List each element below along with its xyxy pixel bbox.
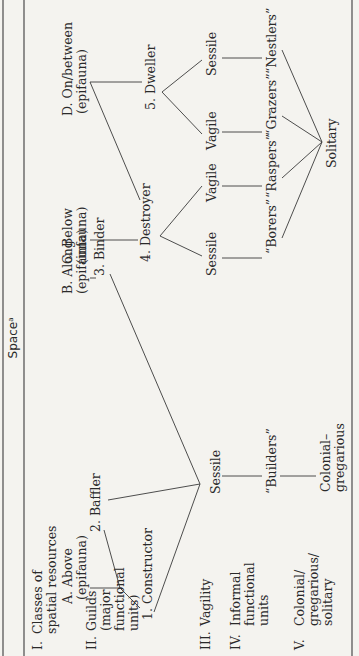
svg-text:A. Above: A. Above (60, 548, 75, 605)
svg-text:gregarious: gregarious (332, 423, 347, 492)
svg-text:(major: (major (98, 589, 113, 631)
guild-dweller: 5. Dweller (143, 45, 158, 110)
row-label-colonial: V. Colonial/ gregarious/ solitary (292, 552, 335, 651)
row-label-guilds: II. Guilds (major functional units) (84, 567, 141, 650)
rotated-diagram-page: Spacea I. Classes of spatial resources I… (0, 0, 359, 656)
svg-text:I.: I. (30, 641, 45, 650)
guild-binder: 3. Binder (92, 217, 107, 276)
svg-text:(epifauna): (epifauna) (74, 535, 89, 600)
row-label-informal-units: IV. Informal functional units (228, 562, 271, 650)
informal-borers: “Borers” (264, 199, 279, 254)
guild-constructor: 1. Constructor (140, 528, 155, 620)
guild-hierarchy-diagram: Spacea I. Classes of spatial resources I… (0, 0, 359, 656)
svg-text:Colonial/: Colonial/ (292, 569, 307, 626)
vagility-vagile-destroyer: Vagile (204, 163, 219, 203)
svg-text:Classes of: Classes of (30, 569, 45, 634)
svg-text:(epifauna): (epifauna) (74, 49, 89, 114)
svg-text:units: units (256, 594, 271, 626)
spatial-class-below: C. Below (infauna) (60, 207, 89, 264)
svg-text:spatial resources: spatial resources (44, 526, 59, 634)
svg-text:units): units) (126, 595, 141, 631)
vagility-sessile-destroyer: Sessile (204, 232, 219, 276)
svg-text:Colonial–: Colonial– (318, 434, 333, 492)
svg-text:C. Below: C. Below (60, 208, 75, 264)
svg-text:IV.: IV. (228, 634, 243, 650)
svg-text:gregarious/: gregarious/ (306, 552, 321, 626)
solitary-label: Solitary (324, 117, 339, 168)
guild-destroyer: 4. Destroyer (138, 183, 153, 262)
svg-text:III.: III. (198, 631, 213, 650)
informal-raspers: “Raspers” (264, 134, 279, 198)
colonial-gregarious: Colonial– gregarious (318, 423, 347, 492)
svg-text:Informal: Informal (228, 572, 243, 626)
svg-text:functional: functional (112, 567, 127, 631)
spatial-class-above: A. Above (epifauna) (60, 535, 89, 605)
svg-text:(infauna): (infauna) (74, 207, 89, 264)
svg-text:functional: functional (242, 562, 257, 626)
svg-text:V.: V. (292, 639, 307, 651)
guild-baffler: 2. Baffler (88, 473, 103, 532)
header-title: Spacea (6, 318, 20, 359)
svg-text:D. On/between: D. On/between (60, 22, 75, 116)
svg-text:II.: II. (84, 636, 99, 650)
svg-text:Vagility: Vagility (198, 578, 213, 627)
svg-text:solitary: solitary (320, 578, 335, 626)
informal-builders: “Builders” (264, 428, 279, 494)
vagility-sessile-builders: Sessile (208, 450, 223, 494)
vagility-vagile-dweller: Vagile (204, 111, 219, 151)
row-label-classes: I. Classes of spatial resources (30, 526, 59, 650)
spatial-class-on-between: D. On/between (epifauna) (60, 22, 89, 116)
informal-grazers: “Grazers” (264, 73, 279, 136)
row-label-vagility: III. Vagility (198, 578, 213, 650)
informal-nestlers: “Nestlers” (264, 8, 279, 74)
vagility-sessile-dweller: Sessile (204, 32, 219, 76)
